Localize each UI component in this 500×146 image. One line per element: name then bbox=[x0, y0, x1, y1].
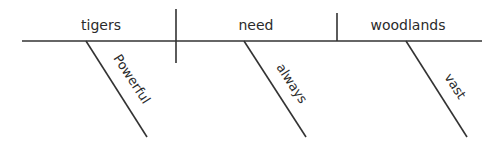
modifier-word-subject: Powerful bbox=[110, 51, 153, 106]
subject-word: tigers bbox=[81, 17, 121, 33]
verb-word: need bbox=[239, 17, 274, 33]
object-word: woodlands bbox=[371, 17, 446, 33]
sentence-diagram: tigers need woodlands Powerful always va… bbox=[0, 0, 500, 146]
modifier-word-object: vast bbox=[441, 70, 469, 101]
modifier-word-verb: always bbox=[273, 60, 310, 106]
